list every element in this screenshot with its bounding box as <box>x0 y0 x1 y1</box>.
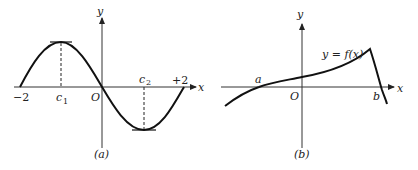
c1-subscript: 1 <box>63 97 68 106</box>
caption-a: (a) <box>94 148 109 161</box>
origin-label-a: O <box>91 91 100 104</box>
y-label-a: y <box>96 5 104 18</box>
c2-subscript: 2 <box>146 78 151 87</box>
root-b-label: b <box>373 90 380 103</box>
caption-b: (b) <box>294 148 310 161</box>
panel-b: y x O a b y = f(x) (b) <box>221 8 404 161</box>
tick-plus-2: +2 <box>172 74 188 87</box>
curve-label: y = f(x) <box>321 48 363 61</box>
origin-label-b: O <box>290 90 299 103</box>
x-label-b: x <box>397 82 404 95</box>
c2-label: c <box>139 73 145 86</box>
c1-label: c <box>56 91 62 104</box>
panel-a: y x O −2 +2 c 1 c 2 (a) <box>13 5 205 161</box>
tick-minus-2: −2 <box>13 91 29 104</box>
y-label-b: y <box>296 8 304 21</box>
x-label-a: x <box>198 81 205 94</box>
root-a-label: a <box>255 73 262 86</box>
figure-canvas: y x O −2 +2 c 1 c 2 (a) y x O a b y = f(… <box>0 0 418 170</box>
